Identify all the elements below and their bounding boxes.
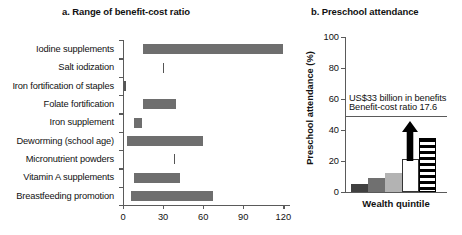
panel-a-range-bar — [163, 63, 164, 73]
panel-a-category-label: Folate fortification — [44, 95, 114, 113]
panel-b-bar — [419, 138, 436, 192]
panel-b-x-axis-label: Wealth quintile — [362, 198, 429, 209]
panel-a-category-labels: Iodine supplementsSalt iodizationIron fo… — [0, 40, 118, 205]
panel-b-annotation-ratio: Benefit-cost ratio 17.6 — [349, 102, 437, 112]
panel-b-y-tick-label: 0 — [313, 187, 339, 197]
panel-b-y-axis-line — [345, 37, 346, 192]
panel-a-y-tick — [119, 113, 123, 114]
panel-a-x-tick — [163, 205, 164, 209]
panel-a-range-of-benefit-cost-ratio: a. Range of benefit-cost ratio Iodine su… — [0, 0, 292, 235]
panel-a-category-label: Breastfeeding promotion — [16, 187, 114, 205]
panel-a-range-bar — [143, 99, 176, 109]
panel-b-y-tick — [341, 99, 345, 100]
panel-a-y-tick — [119, 187, 123, 188]
panel-a-range-bar — [134, 118, 142, 128]
panel-a-x-tick-label: 120 — [276, 212, 292, 222]
figure-root: a. Range of benefit-cost ratio Iodine su… — [0, 0, 462, 235]
panel-b-bar — [351, 184, 368, 192]
panel-a-x-tick-label: 0 — [120, 212, 125, 222]
panel-a-category-label: Iron supplement — [50, 113, 114, 131]
panel-a-x-tick-label: 30 — [158, 212, 168, 222]
panel-a-y-tick — [119, 168, 123, 169]
panel-b-y-tick-label: 60 — [313, 94, 339, 104]
panel-b-annotation-rule — [345, 116, 447, 117]
panel-b-y-tick — [341, 37, 345, 38]
panel-a-category-label: Deworming (school age) — [17, 132, 114, 150]
panel-a-plot-area: 0306090120 — [123, 40, 290, 205]
panel-a-y-tick — [119, 58, 123, 59]
panel-a-range-bar — [127, 136, 203, 146]
panel-b-preschool-attendance: b. Preschool attendance Preschool attend… — [292, 0, 462, 235]
panel-a-category-label: Vitamin A supplements — [23, 168, 114, 186]
panel-a-title: a. Range of benefit-cost ratio — [62, 6, 190, 17]
panel-b-y-tick-label: 100 — [313, 32, 339, 42]
panel-b-plot-area: US$33 billion in benefits Benefit-cost r… — [345, 37, 447, 192]
panel-b-bar — [385, 173, 402, 192]
panel-a-category-label: Iodine supplements — [36, 40, 114, 58]
panel-a-y-tick — [119, 150, 123, 151]
panel-b-y-tick-label: 40 — [313, 125, 339, 135]
panel-a-category-label: Micronutrient powders — [26, 150, 114, 168]
panel-b-bar — [402, 159, 419, 192]
panel-b-y-tick-label: 20 — [313, 156, 339, 166]
panel-b-y-tick — [341, 161, 345, 162]
panel-b-x-axis-line — [345, 192, 447, 193]
panel-a-x-tick-label: 90 — [238, 212, 248, 222]
panel-a-range-bar — [134, 173, 181, 183]
panel-a-category-label: Salt iodization — [58, 58, 114, 76]
panel-b-y-tick — [341, 68, 345, 69]
panel-a-x-tick-label: 60 — [198, 212, 208, 222]
panel-a-y-tick — [119, 40, 123, 41]
panel-b-y-tick — [341, 192, 345, 193]
panel-b-y-tick — [341, 130, 345, 131]
panel-a-x-tick — [203, 205, 204, 209]
panel-b-up-arrow-icon — [401, 121, 419, 161]
panel-a-y-axis-line — [123, 40, 124, 205]
panel-a-range-bar — [124, 81, 125, 91]
panel-a-category-label: Iron fortification of staples — [12, 77, 114, 95]
panel-a-y-tick — [119, 132, 123, 133]
panel-a-range-bar — [174, 154, 175, 164]
panel-a-x-axis-line — [123, 205, 290, 206]
panel-a-y-tick — [119, 77, 123, 78]
panel-a-y-tick — [119, 95, 123, 96]
panel-a-x-tick — [123, 205, 124, 209]
panel-a-x-tick — [243, 205, 244, 209]
panel-b-y-tick-label: 80 — [313, 63, 339, 73]
panel-b-bar — [368, 178, 385, 192]
panel-a-range-bar — [131, 191, 212, 201]
panel-a-range-bar — [143, 44, 283, 54]
panel-a-x-tick — [283, 205, 284, 209]
panel-b-title: b. Preschool attendance — [311, 6, 419, 17]
